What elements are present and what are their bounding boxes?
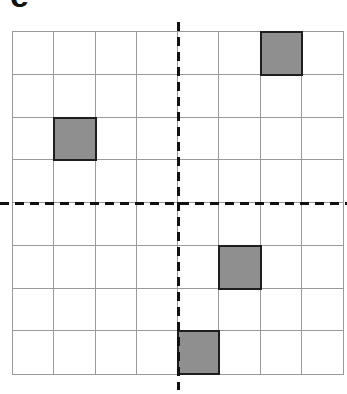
- grid-cell: [137, 160, 178, 203]
- shaded-cell: [54, 118, 95, 161]
- grid-cell: [178, 246, 219, 289]
- grid-cell: [302, 160, 343, 203]
- grid-cell: [96, 331, 137, 374]
- grid-cell: [137, 289, 178, 332]
- grid-cell: [137, 246, 178, 289]
- grid-cell: [13, 160, 54, 203]
- grid-cell: [96, 32, 137, 75]
- grid-cell: [96, 118, 137, 161]
- horizontal-dashed-axis: [0, 202, 347, 205]
- grid-cell: [261, 289, 302, 332]
- grid-cell: [178, 32, 219, 75]
- grid-cell: [137, 32, 178, 75]
- grid-cell: [13, 75, 54, 118]
- grid-cell: [219, 160, 260, 203]
- grid-cell: [302, 289, 343, 332]
- grid-cell: [13, 203, 54, 246]
- grid-cell: [261, 75, 302, 118]
- grid-cell: [13, 32, 54, 75]
- grid-cell: [13, 118, 54, 161]
- grid-cell: [261, 203, 302, 246]
- grid-cell: [302, 203, 343, 246]
- grid-cell: [178, 160, 219, 203]
- grid-cell: [178, 289, 219, 332]
- grid-cell: [13, 289, 54, 332]
- grid-cell: [96, 246, 137, 289]
- grid-cell: [302, 32, 343, 75]
- panel-label: e: [10, 0, 29, 12]
- grid-cell: [219, 203, 260, 246]
- grid-cell: [54, 32, 95, 75]
- grid-cell: [137, 203, 178, 246]
- grid-cell: [54, 331, 95, 374]
- grid-cell: [54, 289, 95, 332]
- grid-cell: [96, 160, 137, 203]
- grid-cell: [219, 118, 260, 161]
- grid-cell: [261, 118, 302, 161]
- grid-cell: [137, 118, 178, 161]
- grid-cell: [219, 32, 260, 75]
- shaded-cell: [178, 331, 219, 374]
- grid-cell: [178, 75, 219, 118]
- grid-cell: [302, 118, 343, 161]
- vertical-dashed-axis: [177, 22, 180, 390]
- grid-cell: [219, 289, 260, 332]
- grid-cell: [261, 331, 302, 374]
- grid-cell: [54, 75, 95, 118]
- grid-cell: [261, 246, 302, 289]
- grid-cell: [178, 203, 219, 246]
- grid-cell: [261, 160, 302, 203]
- grid-cell: [54, 203, 95, 246]
- shaded-cell: [261, 32, 302, 75]
- grid-cell: [219, 331, 260, 374]
- grid-cell: [54, 246, 95, 289]
- grid-cell: [302, 75, 343, 118]
- grid-cell: [13, 331, 54, 374]
- shaded-cell: [219, 246, 260, 289]
- grid-cell: [137, 75, 178, 118]
- grid-cell: [302, 246, 343, 289]
- grid-cell: [13, 246, 54, 289]
- grid-cell: [302, 331, 343, 374]
- grid-cell: [219, 75, 260, 118]
- grid-cell: [96, 75, 137, 118]
- grid-cell: [96, 289, 137, 332]
- grid-cell: [54, 160, 95, 203]
- grid-cell: [96, 203, 137, 246]
- grid-cell: [178, 118, 219, 161]
- grid-cell: [137, 331, 178, 374]
